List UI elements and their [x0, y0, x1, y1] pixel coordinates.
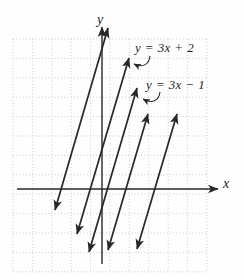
equation-label-line-plus-2: y = 3x + 2: [133, 40, 194, 55]
graph-figure: y x y = 3x + 2 y = 3x − 1: [0, 0, 244, 280]
equation-label-line-minus-1: y = 3x − 1: [144, 77, 205, 92]
grid-lines: [13, 39, 207, 272]
x-axis-label: x: [222, 176, 230, 191]
label-callout-arrow: [134, 56, 150, 66]
parallel-lines: [55, 28, 177, 252]
coordinate-plane: y x y = 3x + 2 y = 3x − 1: [0, 0, 244, 280]
y-axis-label: y: [95, 12, 104, 27]
parallel-line: [55, 28, 108, 210]
parallel-line: [137, 114, 177, 249]
